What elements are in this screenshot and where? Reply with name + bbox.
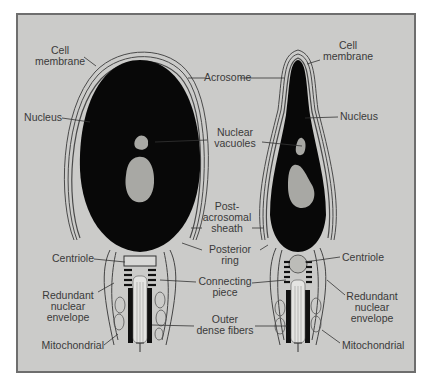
- left-vacuole-large: [125, 157, 154, 203]
- right-outer-dense-fiber-r: [305, 290, 310, 343]
- label-outer-dense-fibers: Outer dense fibers: [192, 314, 258, 336]
- label-line: membrane: [318, 51, 378, 62]
- right-nucleus: [270, 60, 326, 252]
- label-line: membrane: [30, 56, 90, 67]
- label-left-mitochondrial: Mitochondrial: [34, 340, 104, 351]
- label-line: envelope: [38, 312, 98, 323]
- label-post-acrosomal-sheath: Post- acrosomal sheath: [197, 201, 257, 234]
- left-outer-dense-fiber-r: [147, 288, 152, 343]
- right-centriole: [289, 255, 307, 273]
- label-nuclear-vacuoles: Nuclear vacuoles: [205, 127, 265, 149]
- label-line: ring: [200, 255, 260, 266]
- label-right-redundant-nuclear-envelope: Redundant nuclear envelope: [342, 291, 402, 324]
- label-left-centriole: Centriole: [40, 253, 94, 264]
- label-line: vacuoles: [205, 138, 265, 149]
- label-posterior-ring: Posterior ring: [200, 244, 260, 266]
- label-connecting-piece: Connecting piece: [195, 276, 255, 298]
- label-left-cell-membrane: Cell membrane: [30, 45, 90, 67]
- right-outer-dense-fiber-l: [286, 290, 291, 343]
- label-right-centriole: Centriole: [342, 252, 384, 263]
- left-nucleus: [80, 60, 200, 252]
- label-left-redundant-nuclear-envelope: Redundant nuclear envelope: [38, 290, 98, 323]
- left-outer-dense-fiber-l: [128, 288, 133, 343]
- label-line: piece: [195, 287, 255, 298]
- label-line: sheath: [197, 223, 257, 234]
- label-line: envelope: [342, 313, 402, 324]
- right-sperm-cell: [260, 50, 337, 352]
- label-right-mitochondrial: Mitochondrial: [342, 340, 404, 351]
- label-right-nucleus: Nucleus: [340, 111, 378, 122]
- label-right-cell-membrane: Cell membrane: [318, 40, 378, 62]
- label-acrosome: Acrosome: [204, 72, 244, 83]
- label-line: dense fibers: [192, 325, 258, 336]
- label-left-nucleus: Nucleus: [20, 112, 62, 123]
